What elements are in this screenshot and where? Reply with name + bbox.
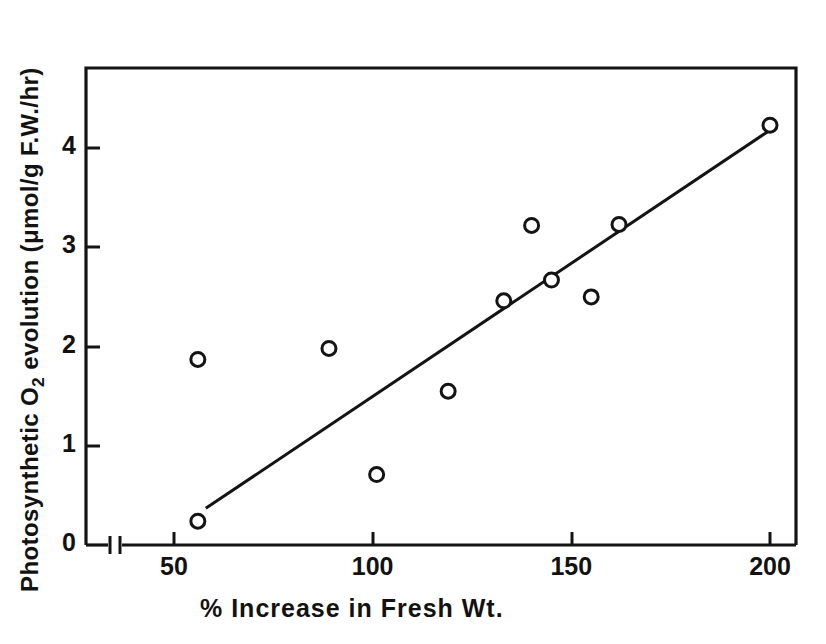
trend-line: [206, 130, 770, 508]
x-tick-label-200: 200: [735, 552, 805, 581]
y-axis-title: Photosynthetic O2 evolution (μmol/g F.W.…: [16, 32, 60, 592]
y-tick-label-2: 2: [36, 330, 76, 359]
x-axis-title: % Increase in Fresh Wt.: [200, 594, 504, 623]
axes-frame: [86, 68, 796, 554]
regression-line: [206, 130, 770, 508]
data-point: [612, 217, 626, 231]
y-tick-label-4: 4: [36, 131, 76, 160]
y-tick-label-3: 3: [36, 230, 76, 259]
data-point: [497, 294, 511, 308]
data-point: [763, 118, 777, 132]
data-point: [322, 341, 336, 355]
scatter-plot-svg: [0, 0, 826, 644]
plot-frame: [86, 68, 796, 545]
x-tick-label-50: 50: [139, 552, 209, 581]
x-tick-label-150: 150: [536, 552, 606, 581]
y-axis-title-prefix: Photosynthetic O: [16, 387, 43, 592]
y-axis-ticks: [86, 148, 100, 446]
x-axis-ticks: [174, 532, 770, 545]
data-point: [191, 514, 205, 528]
y-tick-label-1: 1: [36, 429, 76, 458]
figure-container: Photosynthetic O2 evolution (μmol/g F.W.…: [0, 0, 826, 644]
data-point: [544, 273, 558, 287]
data-point: [584, 290, 598, 304]
data-point: [370, 468, 384, 482]
data-point: [191, 352, 205, 366]
x-tick-label-100: 100: [338, 552, 408, 581]
y-axis-title-subscript: 2: [28, 377, 48, 387]
y-tick-label-0: 0: [36, 528, 76, 557]
data-point: [441, 384, 455, 398]
data-point: [525, 218, 539, 232]
